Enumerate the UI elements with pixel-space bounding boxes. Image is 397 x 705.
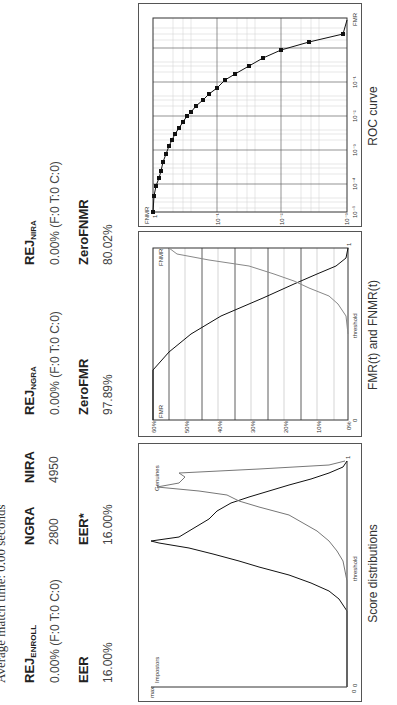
fmr-axis-label: FMR: [158, 404, 164, 418]
roc-xtick-4: 10⁻²: [352, 110, 358, 122]
roc-xtick-5: 10⁻¹: [352, 76, 358, 88]
tick-60: 60%: [151, 420, 157, 433]
impostors-label: Impostors: [154, 657, 160, 683]
roc-markers: [151, 32, 345, 214]
stat-rej-ngra: REJNGRA 0.00% (F:0 T:0 C:0): [22, 311, 62, 415]
fmr-fnmr-chart: 60% 50% 40% 30% 20% 10% 0% FMR FNMR 0 1 …: [139, 232, 361, 436]
x-axis-label: threshold: [352, 556, 358, 581]
score-distribution-caption: Score distributions: [366, 445, 380, 702]
x-zero-label: 0: [352, 418, 358, 422]
x-one-label: 1: [345, 455, 351, 459]
stat-nira: NIRA 4950: [22, 451, 61, 483]
roc-ytick-3: 10⁻²: [279, 213, 285, 225]
y-max-label: max: [149, 687, 155, 698]
roc-panel: FNMR 1 10⁻¹ 10⁻² 10⁻³ 10⁻⁵ 10⁻⁴ 10⁻³ 10⁻…: [138, 3, 362, 227]
threshold-label: threshold: [352, 313, 358, 338]
stat-zerofmr: ZeroFMR 97.89%: [76, 359, 115, 415]
fmr-fnmr-caption: FMR(t) and FNMR(t): [366, 233, 380, 437]
x-one-label: 1: [346, 242, 352, 246]
stat-eer-star: EER* 16.00%: [76, 504, 115, 545]
stat-eer: EER 16.00%: [76, 642, 115, 683]
roc-xtick-1: 10⁻⁵: [352, 205, 358, 218]
roc-xtick-3: 10⁻³: [352, 144, 358, 156]
roc-xtick-2: 10⁻⁴: [352, 177, 358, 190]
score-distribution-chart: max 0 0 1 threshold Impostors Genuines: [139, 444, 361, 701]
y-zero-label: 0: [351, 689, 357, 693]
genuines-curve: [157, 461, 347, 687]
stat-rej-nira: REJNIRA 0.00% (F:0 T:0 C:0): [22, 161, 62, 265]
tick-0: 0%: [346, 421, 352, 430]
fmr-fnmr-panel: 60% 50% 40% 30% 20% 10% 0% FMR FNMR 0 1 …: [138, 231, 362, 437]
tick-30: 30%: [250, 420, 256, 433]
tick-10: 10%: [316, 420, 322, 433]
score-distribution-panel: max 0 0 1 threshold Impostors Genuines: [138, 443, 362, 702]
tick-50: 50%: [184, 420, 190, 433]
tick-40: 40%: [217, 420, 223, 433]
stat-rej-enroll: REJENROLL 0.00% (F:0 T:0 C:0): [22, 579, 62, 683]
tick-20: 20%: [283, 420, 289, 433]
fnmr-axis-label: FNMR: [158, 248, 164, 266]
report-page: Average match time: 0.00 seconds REJENRO…: [0, 0, 397, 705]
roc-ytick-4: 10⁻³: [344, 213, 350, 225]
roc-ytick-2: 10⁻¹: [215, 213, 221, 225]
average-match-time: Average match time: 0.00 seconds: [0, 505, 9, 683]
fmr-axis-label: FMR: [352, 12, 358, 26]
fnmr-axis-label: FNMR: [144, 206, 150, 224]
stat-ngra: NGRA 2800: [22, 507, 61, 545]
fmr-curve: [153, 248, 348, 420]
roc-chart: FNMR 1 10⁻¹ 10⁻² 10⁻³ 10⁻⁵ 10⁻⁴ 10⁻³ 10⁻…: [139, 4, 361, 226]
stat-zerofnmr: ZeroFNMR 80.02%: [76, 199, 115, 265]
impostors-curve: [151, 461, 347, 687]
roc-caption: ROC curve: [366, 5, 380, 227]
fnmr-curve: [169, 248, 348, 334]
x-zero-label: 0: [352, 683, 358, 687]
roc-ytick-1: 1: [152, 214, 158, 218]
